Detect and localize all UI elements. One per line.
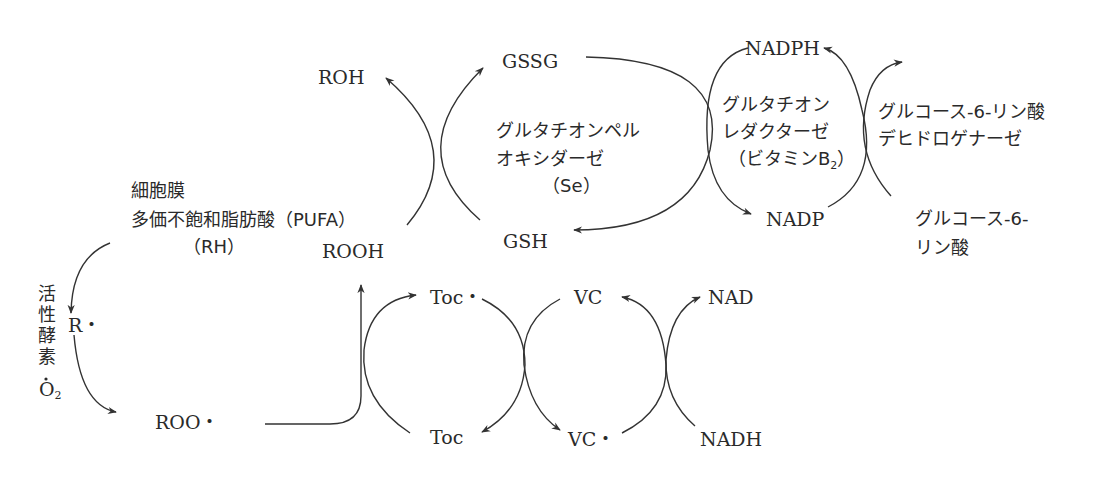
arrow-rh-to-r <box>71 243 110 313</box>
enzyme-g6pd-2: デヒドロゲナーゼ <box>878 128 1022 149</box>
membrane-label-1: 細胞膜 <box>131 180 185 201</box>
node-nadh: NADH <box>700 428 762 450</box>
arrow-vc-to-vcrad <box>524 299 560 430</box>
enzyme-gpx-3: （Se） <box>542 175 601 196</box>
node-roo-radical: ROO・ <box>155 411 219 433</box>
arrow-vcrad-to-vc <box>622 297 666 433</box>
arrow-roo-to-rooh <box>265 285 361 424</box>
arrow-gssg-to-gsh <box>574 57 712 230</box>
arrow-nadh-to-nad <box>666 297 700 426</box>
enzyme-gr-2: レダクターゼ <box>722 121 829 142</box>
enzyme-gr-1: グルタチオン <box>722 94 830 115</box>
node-toc: Toc <box>430 426 463 448</box>
arrow-nadp-to-nadph <box>824 48 867 207</box>
node-r-radical: R・ <box>68 314 101 336</box>
active-oxygen-char-3: 酵 <box>38 325 56 346</box>
arrow-toc-to-tocrad <box>364 295 416 433</box>
arrow-gsh-to-gssg <box>441 68 483 220</box>
enzyme-gr-3: （ビタミンB2） <box>728 148 855 172</box>
oxygen-label: O2 <box>39 378 62 402</box>
membrane-label-3: （RH） <box>183 236 245 257</box>
arrow-r-to-roo <box>74 335 116 412</box>
active-oxygen-char-2: 性 <box>38 304 56 325</box>
membrane-label-2: 多価不飽和脂肪酸（PUFA） <box>131 209 356 230</box>
node-nadph: NADPH <box>745 37 820 59</box>
node-gsh: GSH <box>503 230 548 252</box>
arrow-tocrad-to-toc <box>482 299 525 432</box>
substrate-g6p-1: グルコース-6- <box>915 208 1028 229</box>
node-vc: VC <box>573 286 602 308</box>
node-gssg: GSSG <box>502 50 558 72</box>
arrow-rooh-to-roh <box>386 78 434 225</box>
node-nadp: NADP <box>766 208 825 230</box>
node-rooh: ROOH <box>322 240 384 262</box>
enzyme-gpx-2: オキシダーゼ <box>496 148 604 169</box>
node-roh: ROH <box>318 66 364 88</box>
active-oxygen-char-1: 活 <box>38 283 56 304</box>
substrate-g6p-2: リン酸 <box>915 237 969 258</box>
active-oxygen-char-4: 素 <box>38 346 56 367</box>
enzyme-gpx-1: グルタチオンペル <box>496 120 640 141</box>
enzyme-g6pd-1: グルコース-6-リン酸 <box>878 101 1045 122</box>
antioxidant-pathway-diagram: ROH GSSG NADPH 細胞膜 多価不飽和脂肪酸（PUFA） （RH） R… <box>0 0 1118 477</box>
node-toc-radical: Toc・ <box>430 286 482 308</box>
node-nad: NAD <box>708 286 754 308</box>
node-vc-radical: VC・ <box>567 428 615 450</box>
